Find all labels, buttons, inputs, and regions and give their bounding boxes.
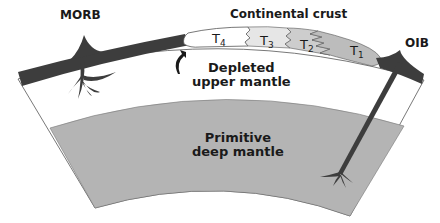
continental-crust-label: Continental crust xyxy=(230,8,347,21)
terrane-t4-label: T4 xyxy=(212,31,226,48)
terrane-t3-label: T3 xyxy=(260,33,274,50)
terrane-t1-label: T1 xyxy=(350,43,364,60)
primitive-deep-mantle-label: Primitive deep mantle xyxy=(192,131,284,158)
oib-label: OIB xyxy=(405,37,429,50)
terrane-t2-label: T2 xyxy=(300,37,314,54)
morb-label: MORB xyxy=(60,9,101,22)
depleted-upper-mantle-label: Depleted upper mantle xyxy=(192,61,291,88)
